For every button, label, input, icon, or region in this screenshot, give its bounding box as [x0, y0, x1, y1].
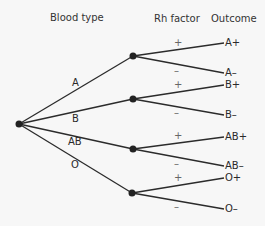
sign-minus-ab: –	[174, 159, 179, 169]
outcome-b-plus: B+	[225, 80, 240, 90]
branch-label-b: B	[72, 114, 79, 124]
branch-label-ab: AB	[68, 137, 82, 147]
outcome-ab-minus: AB–	[225, 161, 244, 171]
sign-plus-o: +	[174, 173, 182, 183]
node-o	[129, 190, 136, 197]
node-b	[130, 96, 137, 103]
branch-label-o: O	[71, 160, 79, 170]
outcome-o-minus: O–	[225, 204, 238, 214]
node-a	[130, 53, 137, 60]
outcome-a-minus: A–	[225, 68, 237, 78]
sign-minus-o: –	[174, 202, 179, 212]
branch-label-a: A	[72, 78, 79, 88]
outcome-ab-plus: AB+	[225, 132, 247, 142]
sign-minus-b: –	[174, 108, 179, 118]
outcome-o-plus: O+	[225, 173, 241, 183]
sign-minus-a: –	[174, 66, 179, 76]
outcome-b-minus: B–	[225, 110, 237, 120]
root-node	[16, 121, 23, 128]
sign-plus-ab: +	[174, 131, 182, 141]
sign-plus-b: +	[174, 80, 182, 90]
sign-plus-a: +	[174, 38, 182, 48]
header-outcome: Outcome	[211, 14, 257, 24]
header-rh-factor: Rh factor	[154, 14, 200, 24]
outcome-a-plus: A+	[225, 38, 240, 48]
node-ab	[130, 146, 137, 153]
header-blood-type: Blood type	[50, 13, 104, 23]
